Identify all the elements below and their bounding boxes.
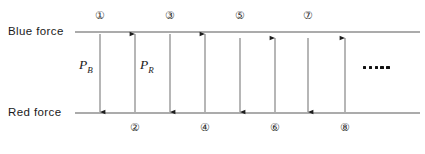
force-exchange-diagram: Blue force Red force PB PR ① ③ ⑤ ⑦ ② ④ ⑥… [0, 0, 425, 154]
circled-number-8: ⑧ [338, 122, 352, 133]
ellipsis-dot [363, 66, 366, 69]
ellipsis-dot [380, 66, 383, 69]
circled-number-1: ① [93, 10, 107, 21]
continuation-ellipsis-icon [363, 66, 390, 69]
p-b-label: PB [79, 58, 93, 75]
circled-number-7: ⑦ [301, 10, 315, 21]
circled-number-6: ⑥ [268, 122, 282, 133]
p-r-subscript: R [148, 65, 154, 75]
red-force-axis-label: Red force [8, 107, 61, 119]
p-b-base: P [79, 57, 87, 72]
p-r-base: P [140, 57, 148, 72]
circled-number-5: ⑤ [233, 10, 247, 21]
diagram-canvas [0, 0, 425, 154]
blue-force-axis-label: Blue force [8, 26, 64, 38]
ellipsis-dot [369, 66, 372, 69]
ellipsis-dot [375, 66, 378, 69]
p-b-subscript: B [87, 65, 93, 75]
p-r-label: PR [140, 58, 154, 75]
circled-number-2: ② [128, 122, 142, 133]
circled-number-3: ③ [163, 10, 177, 21]
circled-number-4: ④ [198, 122, 212, 133]
ellipsis-dot [386, 66, 389, 69]
